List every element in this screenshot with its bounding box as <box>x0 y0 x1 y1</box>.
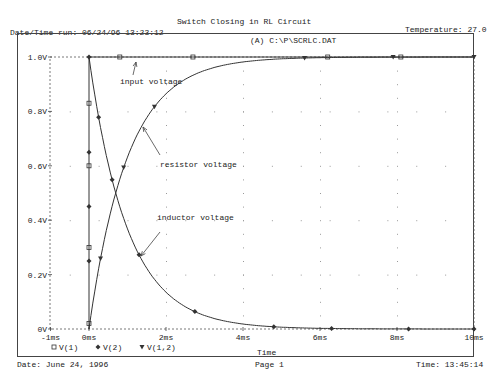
grid-dot <box>320 166 321 167</box>
marker-diamond <box>87 55 92 60</box>
grid-dot <box>397 152 398 153</box>
grid-dot <box>387 166 388 167</box>
grid-dot <box>445 220 446 221</box>
grid-dot <box>243 98 244 99</box>
grid-dot <box>416 220 417 221</box>
grid-dot <box>320 207 321 208</box>
grid-dot <box>156 166 157 167</box>
grid-dot <box>99 275 100 276</box>
grid-dot <box>156 275 157 276</box>
annotation-label: resistor voltage <box>160 160 237 169</box>
x-tick-label: 2ms <box>159 333 174 342</box>
x-tick-label: 0ms <box>82 333 97 342</box>
grid-dot <box>166 71 167 72</box>
grid-dot <box>243 166 244 167</box>
grid-dot <box>397 98 398 99</box>
marker-diamond <box>87 259 92 264</box>
grid-dot <box>330 166 331 167</box>
grid-dot <box>243 111 244 112</box>
grid-dot <box>185 275 186 276</box>
grid-dot <box>166 98 167 99</box>
grid-dot <box>185 111 186 112</box>
marker-triangle <box>121 166 126 171</box>
grid-dot <box>272 166 273 167</box>
grid-dot <box>320 288 321 289</box>
grid-dot <box>330 275 331 276</box>
marker-diamond <box>271 324 276 329</box>
grid-dot <box>243 193 244 194</box>
grid-dot <box>70 111 71 112</box>
grid-dot <box>243 207 244 208</box>
annotation-arrow <box>143 127 160 155</box>
grid-dot <box>397 179 398 180</box>
grid-dot <box>70 275 71 276</box>
grid-dot <box>330 111 331 112</box>
plot-area <box>50 57 474 329</box>
legend-label: V(2) <box>103 343 122 352</box>
grid-dot <box>166 234 167 235</box>
grid-dot <box>330 220 331 221</box>
grid-dot <box>166 179 167 180</box>
series-line-v12 <box>89 57 474 329</box>
annotation-arrow <box>141 232 160 256</box>
grid <box>70 71 446 317</box>
grid-dot <box>387 220 388 221</box>
grid-dot <box>166 275 167 276</box>
grid-dot <box>320 193 321 194</box>
legend-label: V(1) <box>59 343 78 352</box>
annotation-label: inductor voltage <box>157 213 234 222</box>
grid-dot <box>397 207 398 208</box>
grid-dot <box>166 288 167 289</box>
grid-dot <box>320 179 321 180</box>
grid-dot <box>301 166 302 167</box>
grid-dot <box>445 166 446 167</box>
grid-dot <box>320 247 321 248</box>
series-line-v1 <box>89 57 474 329</box>
grid-dot <box>243 315 244 316</box>
annotations: input voltageresistor voltageinductor vo… <box>120 62 237 256</box>
x-tick-label: 6ms <box>313 333 328 342</box>
marker-diamond <box>87 150 92 155</box>
grid-dot <box>359 111 360 112</box>
grid-dot <box>320 234 321 235</box>
marker-layer <box>87 55 477 332</box>
axis-ticks: -1ms0ms2ms4ms6ms8ms10ms0V0.2V0.4V0.6V0.8… <box>28 53 484 342</box>
grid-dot <box>214 275 215 276</box>
grid-dot <box>320 84 321 85</box>
grid-dot <box>387 111 388 112</box>
grid-dot <box>99 166 100 167</box>
grid-dot <box>70 166 71 167</box>
grid-dot <box>397 247 398 248</box>
grid-dot <box>166 152 167 153</box>
marker-diamond <box>87 204 92 209</box>
x-axis-label: Time <box>257 348 276 357</box>
grid-dot <box>320 98 321 99</box>
grid-dot <box>166 111 167 112</box>
grid-dot <box>397 125 398 126</box>
grid-dot <box>166 261 167 262</box>
arrow-head-icon <box>143 127 147 132</box>
grid-dot <box>243 220 244 221</box>
grid-dot <box>416 166 417 167</box>
grid-dot <box>243 179 244 180</box>
x-tick-label: 4ms <box>236 333 251 342</box>
grid-dot <box>397 166 398 167</box>
y-tick-label: 0.8V <box>28 107 47 116</box>
marker-diamond <box>110 177 115 182</box>
grid-dot <box>397 111 398 112</box>
grid-dot <box>416 111 417 112</box>
grid-dot <box>243 139 244 140</box>
grid-dot <box>214 111 215 112</box>
grid-dot <box>397 302 398 303</box>
grid-dot <box>445 275 446 276</box>
x-tick-label: -1ms <box>41 333 60 342</box>
grid-dot <box>272 111 273 112</box>
grid-dot <box>243 234 244 235</box>
grid-dot <box>320 302 321 303</box>
grid-dot <box>445 111 446 112</box>
grid-dot <box>397 261 398 262</box>
grid-dot <box>320 139 321 140</box>
y-tick-label: 0.2V <box>28 271 47 280</box>
grid-dot <box>320 220 321 221</box>
grid-dot <box>243 125 244 126</box>
